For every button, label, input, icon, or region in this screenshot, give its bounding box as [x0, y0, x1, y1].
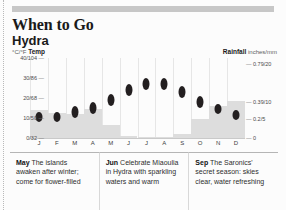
- temperature-marker: [197, 96, 204, 108]
- month-label: M: [66, 140, 84, 146]
- top-decorative-band: [12, 6, 274, 12]
- temperature-marker: [233, 110, 240, 120]
- climate-chart: [30, 58, 245, 138]
- chart-column: [48, 58, 66, 138]
- temp-tick-label: 10/50 —: [23, 115, 44, 121]
- left-edge-rule: [3, 0, 4, 210]
- temperature-marker: [107, 94, 114, 106]
- temperature-marker: [179, 86, 186, 98]
- month-label: D: [227, 140, 245, 146]
- temp-tick-label: 30/86 —: [23, 75, 44, 81]
- month-label: A: [84, 140, 102, 146]
- rainfall-tick-label: — 0.39/10: [246, 99, 271, 105]
- month-label: F: [48, 140, 66, 146]
- temp-tick-label: 20/68 —: [23, 95, 44, 101]
- column-divider: [138, 58, 139, 138]
- blurb-sep-month: Sep: [195, 159, 208, 166]
- temperature-marker: [125, 84, 132, 96]
- column-divider: [155, 58, 156, 138]
- month-label: J: [30, 140, 48, 146]
- temperature-marker: [143, 78, 150, 90]
- chart-column: [173, 58, 191, 138]
- temp-tick-label: 40/104 —: [20, 55, 44, 61]
- month-label: J: [137, 140, 155, 146]
- chart-column: [102, 58, 120, 138]
- chart-plot-area: [30, 58, 245, 138]
- rainfall-legend-label: Rainfall: [223, 48, 246, 55]
- rainfall-bar: [191, 119, 209, 138]
- chart-column: [209, 58, 227, 138]
- temperature-marker: [71, 106, 78, 118]
- temperature-marker: [53, 112, 60, 122]
- column-divider: [120, 58, 121, 138]
- month-label: N: [209, 140, 227, 146]
- blurb-jun-month: Jun: [106, 159, 118, 166]
- season-blurbs: May The islands awaken after winter; com…: [10, 152, 278, 210]
- chart-column: [227, 58, 245, 138]
- blurb-may-month: May: [16, 159, 30, 166]
- chart-column: [155, 58, 173, 138]
- month-label: J: [120, 140, 138, 146]
- blurb-sep: Sep The Saronics' secret season: skies c…: [188, 152, 278, 210]
- chart-baseline: [30, 138, 245, 139]
- temperature-marker: [215, 104, 222, 114]
- rainfall-unit-label: inches/mm: [248, 49, 277, 55]
- blurb-jun: Jun Celebrate Miaoulia in Hydra with spa…: [99, 152, 189, 210]
- temp-legend: °C/°F Temp: [12, 48, 45, 55]
- month-label: M: [102, 140, 120, 146]
- rainfall-bar: [102, 125, 120, 138]
- blurb-may: May The islands awaken after winter; com…: [10, 152, 99, 210]
- rainfall-tick-label: — 0.2/5: [246, 116, 265, 122]
- month-label: O: [191, 140, 209, 146]
- location-subtitle: Hydra: [12, 33, 49, 48]
- chart-column: [66, 58, 84, 138]
- rainfall-legend: Rainfall inches/mm: [223, 48, 277, 55]
- temperature-marker: [89, 102, 96, 114]
- rainfall-tick-label: — 0: [246, 135, 256, 141]
- chart-column: [84, 58, 102, 138]
- page-title: When to Go: [12, 16, 94, 34]
- month-label: A: [155, 140, 173, 146]
- climate-panel: When to Go Hydra °C/°F Temp Rainfall inc…: [0, 0, 286, 210]
- temperature-marker: [161, 78, 168, 90]
- chart-column: [138, 58, 156, 138]
- chart-column: [120, 58, 138, 138]
- temp-legend-label: Temp: [28, 48, 45, 55]
- chart-column: [191, 58, 209, 138]
- rainfall-tick-label: — 0.79/20: [246, 61, 271, 67]
- column-divider: [173, 58, 174, 138]
- month-label: S: [173, 140, 191, 146]
